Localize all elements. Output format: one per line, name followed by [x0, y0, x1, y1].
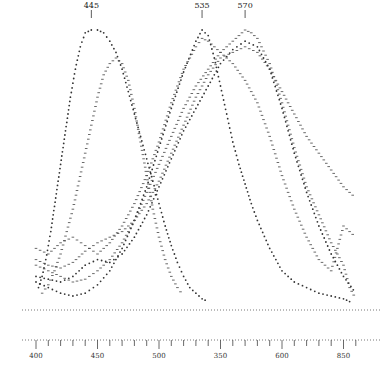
- absorption-spectra-chart: 400450500350600850 445535570: [0, 0, 389, 371]
- data-point: [237, 159, 239, 161]
- data-point: [160, 142, 162, 144]
- data-point: [119, 251, 121, 253]
- data-point: [325, 241, 327, 243]
- data-point: [109, 262, 111, 264]
- data-point: [64, 279, 66, 281]
- data-point: [179, 266, 181, 268]
- data-point: [140, 225, 142, 227]
- data-point: [131, 104, 133, 106]
- data-point: [334, 261, 336, 263]
- data-point: [244, 183, 246, 185]
- data-point: [155, 194, 157, 196]
- data-point: [78, 270, 80, 272]
- data-point: [111, 44, 113, 46]
- data-point: [80, 293, 82, 295]
- data-point: [68, 109, 70, 111]
- data-point: [248, 42, 250, 44]
- data-point: [327, 245, 329, 247]
- data-point: [216, 70, 218, 72]
- data-point: [49, 235, 51, 237]
- data-point: [81, 267, 83, 269]
- x-tick-label: 450: [91, 352, 104, 360]
- data-point: [296, 161, 298, 163]
- data-point: [65, 126, 67, 128]
- data-point: [261, 53, 263, 55]
- data-point: [213, 57, 215, 59]
- data-point: [292, 148, 294, 150]
- data-point: [199, 33, 201, 35]
- data-point: [56, 280, 58, 282]
- data-point: [158, 147, 160, 149]
- data-point: [199, 100, 201, 102]
- data-point: [302, 285, 304, 287]
- data-point: [43, 285, 45, 287]
- data-point: [168, 116, 170, 118]
- data-point: [73, 78, 75, 80]
- data-point: [257, 46, 259, 48]
- data-point: [52, 289, 54, 291]
- data-point: [185, 126, 187, 128]
- data-point: [263, 57, 265, 59]
- data-point: [136, 122, 138, 124]
- data-point: [245, 187, 247, 189]
- data-point: [195, 292, 197, 294]
- data-point: [60, 164, 62, 166]
- data-point: [312, 208, 314, 210]
- data-series: [35, 29, 355, 302]
- data-point: [201, 96, 203, 98]
- data-point: [162, 134, 164, 136]
- data-point: [167, 166, 169, 168]
- data-point: [100, 280, 102, 282]
- data-point: [76, 294, 78, 296]
- peak-label: 535: [194, 1, 209, 10]
- data-point: [161, 212, 163, 214]
- data-point: [75, 273, 77, 275]
- data-point: [320, 229, 322, 231]
- data-point: [127, 91, 129, 93]
- data-point: [78, 50, 80, 52]
- data-point: [195, 108, 197, 110]
- data-point: [40, 279, 42, 281]
- data-point: [163, 221, 165, 223]
- data-point: [193, 45, 195, 47]
- data-point: [68, 277, 70, 279]
- data-point: [281, 270, 283, 272]
- data-point: [183, 130, 185, 132]
- data-point: [220, 85, 222, 87]
- data-point: [166, 229, 168, 231]
- data-point: [138, 229, 140, 231]
- data-point: [72, 276, 74, 278]
- data-point: [60, 281, 62, 283]
- data-point: [337, 264, 339, 266]
- data-point: [158, 186, 160, 188]
- data-point: [39, 276, 41, 278]
- data-point: [226, 56, 228, 58]
- data-point: [147, 182, 149, 184]
- data-point: [81, 41, 83, 43]
- data-point: [162, 178, 164, 180]
- data-point: [177, 262, 179, 264]
- peak-annotations: 445535570: [84, 1, 253, 18]
- data-point: [229, 52, 231, 54]
- data-point: [271, 251, 273, 253]
- x-tick-label: 600: [275, 352, 288, 360]
- data-point: [109, 270, 111, 272]
- data-point: [160, 182, 162, 184]
- data-point: [55, 197, 57, 199]
- data-point: [129, 243, 131, 245]
- data-point: [145, 153, 147, 155]
- data-point: [267, 244, 269, 246]
- data-point: [144, 218, 146, 220]
- data-point: [67, 113, 69, 115]
- data-point: [211, 48, 213, 50]
- data-point: [130, 100, 132, 102]
- data-point: [59, 168, 61, 170]
- data-point: [52, 279, 54, 281]
- data-point: [146, 186, 148, 188]
- data-point: [191, 115, 193, 117]
- data-point: [134, 113, 136, 115]
- data-point: [186, 62, 188, 64]
- data-point: [304, 187, 306, 189]
- data-point: [230, 132, 232, 134]
- data-point: [183, 71, 185, 73]
